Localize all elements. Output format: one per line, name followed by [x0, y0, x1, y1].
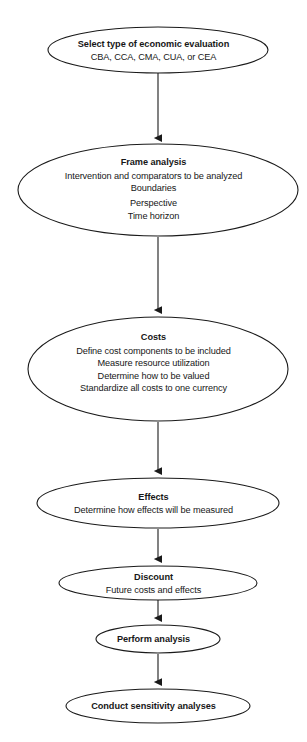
node-conduct-sensitivity-title: Conduct sensitivity analyses — [0, 702, 307, 711]
node-frame-analysis: Frame analysis Intervention and comparat… — [0, 158, 307, 221]
node-perform-analysis: Perform analysis — [0, 635, 307, 644]
node-frame-analysis-line-2: Boundaries — [0, 184, 307, 193]
node-discount-line-1: Future costs and effects — [0, 586, 307, 595]
node-conduct-sensitivity: Conduct sensitivity analyses — [0, 702, 307, 711]
node-costs-title: Costs — [0, 333, 307, 342]
node-perform-analysis-title: Perform analysis — [0, 635, 307, 644]
node-effects: Effects Determine how effects will be me… — [0, 493, 307, 515]
node-select-type-title: Select type of economic evaluation — [0, 40, 307, 49]
node-effects-line-1: Determine how effects will be measured — [0, 506, 307, 515]
node-effects-title: Effects — [0, 493, 307, 502]
node-costs-line-1: Define cost components to be included — [0, 347, 307, 356]
node-costs-line-4: Standardize all costs to one currency — [0, 384, 307, 393]
node-select-type: Select type of economic evaluation CBA, … — [0, 40, 307, 62]
node-costs-line-3: Determine how to be valued — [0, 372, 307, 381]
node-costs-line-2: Measure resource utilization — [0, 359, 307, 368]
node-frame-analysis-line-3: Perspective — [0, 199, 307, 208]
node-frame-analysis-line-4: Time horizon — [0, 212, 307, 221]
flowchart-page: Select type of economic evaluation CBA, … — [0, 0, 307, 742]
node-costs: Costs Define cost components to be inclu… — [0, 333, 307, 393]
node-frame-analysis-title: Frame analysis — [0, 158, 307, 167]
node-select-type-line-1: CBA, CCA, CMA, CUA, or CEA — [0, 53, 307, 62]
node-discount: Discount Future costs and effects — [0, 573, 307, 595]
node-frame-analysis-line-1: Intervention and comparators to be analy… — [0, 172, 307, 181]
node-discount-title: Discount — [0, 573, 307, 582]
